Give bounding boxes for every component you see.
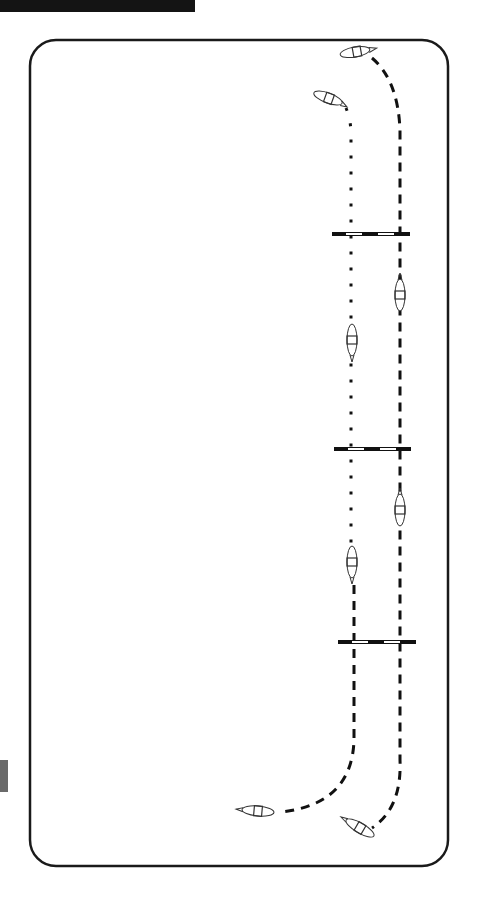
track-left-dashed [280, 585, 354, 812]
arena-outline [30, 40, 448, 866]
pole-set-3 [338, 640, 416, 644]
horse-rider-icon [395, 488, 405, 526]
arena-diagram [0, 0, 477, 900]
horse-rider-icon [347, 546, 357, 584]
horse-rider-icon [338, 813, 376, 841]
horse-rider-icon [312, 88, 349, 110]
pole-set-2 [334, 447, 411, 451]
horse-rider-icon [347, 324, 357, 362]
horse-rider-icon [236, 804, 275, 817]
pole-set-1 [332, 232, 410, 236]
track-right [372, 58, 400, 828]
horse-rider-icon [395, 273, 405, 311]
horse-rider-icon [339, 43, 377, 59]
